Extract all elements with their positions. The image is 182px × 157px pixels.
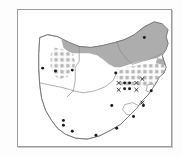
dot-marker: [128, 81, 131, 84]
dot-marker: [142, 104, 145, 107]
dot-marker: [95, 134, 98, 137]
dot-marker: [110, 104, 113, 107]
dot-marker: [62, 124, 65, 127]
dot-marker: [123, 87, 126, 90]
dot-marker: [54, 70, 57, 73]
map-frame: [17, 9, 172, 147]
dot-marker: [150, 89, 153, 92]
map-canvas: [18, 10, 171, 146]
map-figure: solid grey distribution area checkered g…: [0, 0, 182, 157]
dot-marker: [71, 69, 74, 72]
dot-marker: [115, 127, 118, 130]
dot-marker: [143, 36, 146, 39]
dot-marker: [41, 67, 44, 70]
dot-marker: [114, 72, 117, 75]
dot-marker: [128, 87, 131, 90]
dot-marker: [71, 130, 74, 133]
dot-marker: [62, 119, 65, 122]
dot-marker: [132, 115, 135, 118]
dot-marker: [123, 81, 126, 84]
